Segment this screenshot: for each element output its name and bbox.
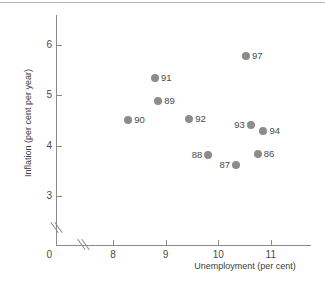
data-point-label-91: 91 xyxy=(161,72,172,83)
scatter-chart-figure: 3456 891011 0 Inflation (per cent per ye… xyxy=(0,0,325,283)
data-point-93 xyxy=(247,121,255,129)
x-tick-8 xyxy=(113,240,114,245)
data-point-92 xyxy=(185,115,193,123)
x-tick-label-8: 8 xyxy=(103,249,123,260)
y-tick-3 xyxy=(57,196,62,197)
data-point-label-97: 97 xyxy=(252,50,263,61)
axis-origin-label: 0 xyxy=(36,249,52,260)
x-axis-break-icon xyxy=(78,239,89,250)
data-point-91 xyxy=(151,74,159,82)
data-point-label-89: 89 xyxy=(164,95,175,106)
y-tick-label-3: 3 xyxy=(36,190,52,201)
y-tick-6 xyxy=(57,45,62,46)
y-tick-5 xyxy=(57,95,62,96)
x-axis-title: Unemployment (per cent) xyxy=(170,261,320,271)
x-axis-line xyxy=(56,245,311,246)
y-axis-title: Inflation (per cent per year) xyxy=(23,48,33,198)
data-point-97 xyxy=(242,52,250,60)
data-point-label-87: 87 xyxy=(215,159,230,170)
x-tick-label-11: 11 xyxy=(261,249,281,260)
x-tick-label-9: 9 xyxy=(156,249,176,260)
data-point-88 xyxy=(204,151,212,159)
data-point-label-90: 90 xyxy=(134,114,145,125)
y-axis-break-icon xyxy=(51,222,62,233)
top-rule-divider xyxy=(0,2,325,3)
data-point-90 xyxy=(124,116,132,124)
x-tick-10 xyxy=(218,240,219,245)
y-tick-label-4: 4 xyxy=(36,140,52,151)
data-point-89 xyxy=(154,97,162,105)
data-point-label-94: 94 xyxy=(269,125,280,136)
x-tick-label-10: 10 xyxy=(208,249,228,260)
data-point-label-93: 93 xyxy=(230,119,245,130)
data-point-94 xyxy=(259,127,267,135)
y-tick-label-6: 6 xyxy=(36,39,52,50)
data-point-87 xyxy=(232,161,240,169)
x-tick-11 xyxy=(271,240,272,245)
data-point-label-88: 88 xyxy=(187,149,202,160)
x-tick-9 xyxy=(166,240,167,245)
data-point-label-86: 86 xyxy=(264,148,275,159)
y-tick-label-5: 5 xyxy=(36,89,52,100)
y-tick-4 xyxy=(57,146,62,147)
data-point-86 xyxy=(254,150,262,158)
data-point-label-92: 92 xyxy=(195,113,206,124)
y-axis-line xyxy=(56,15,57,246)
